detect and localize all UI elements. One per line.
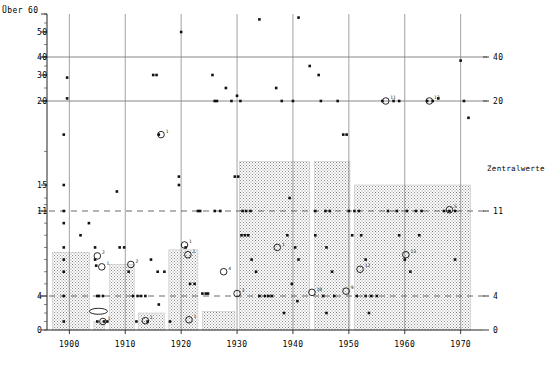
data-point xyxy=(213,210,216,213)
data-point xyxy=(317,74,320,77)
x-axis-label: 1900 xyxy=(59,340,80,349)
data-point xyxy=(62,295,65,298)
data-point xyxy=(342,133,345,136)
data-point xyxy=(66,76,69,79)
data-point xyxy=(240,234,243,237)
data-point xyxy=(155,74,158,77)
data-point xyxy=(219,210,222,213)
data-point xyxy=(324,210,327,213)
data-point xyxy=(150,258,153,261)
data-point xyxy=(88,222,91,225)
data-point xyxy=(387,210,390,213)
data-point xyxy=(398,234,401,237)
median-circle-label: 11 xyxy=(390,95,396,100)
median-step-bar xyxy=(314,161,350,330)
median-circle-label: 13 xyxy=(434,95,440,100)
data-point xyxy=(127,270,130,273)
x-axis-label: 1950 xyxy=(338,340,359,349)
data-point xyxy=(225,87,228,90)
data-point xyxy=(189,283,192,286)
data-point xyxy=(320,100,323,103)
scatter-plot-svg: 211211111413109121113135 xyxy=(0,0,550,367)
x-axis-label: 1940 xyxy=(283,340,304,349)
data-point xyxy=(234,175,237,178)
data-point xyxy=(103,320,106,323)
median-circle-label: 1 xyxy=(106,261,109,266)
data-point xyxy=(264,295,267,298)
zentralwerte-label: Zentralwerte xyxy=(487,164,545,173)
ellipse-marker xyxy=(89,308,107,314)
data-point xyxy=(62,222,65,225)
y-axis-label-right: 20 xyxy=(493,97,503,106)
data-point xyxy=(62,133,65,136)
data-point xyxy=(135,320,138,323)
data-point xyxy=(258,18,261,21)
data-point xyxy=(62,258,65,261)
data-point xyxy=(308,65,311,68)
data-point xyxy=(459,59,462,62)
data-point xyxy=(314,234,317,237)
data-point xyxy=(351,234,354,237)
data-point xyxy=(275,87,278,90)
data-point xyxy=(144,295,147,298)
data-point xyxy=(102,295,105,298)
data-point xyxy=(283,312,286,315)
data-point xyxy=(291,283,294,286)
median-step-bar xyxy=(110,264,135,330)
median-circle-label: 5 xyxy=(454,204,457,209)
x-axis-label: 1970 xyxy=(450,340,471,349)
data-point xyxy=(62,184,65,187)
data-point xyxy=(296,300,299,303)
median-circle-marker xyxy=(94,253,101,260)
data-point xyxy=(443,210,446,213)
data-point xyxy=(329,210,332,213)
data-point xyxy=(169,320,172,323)
data-point xyxy=(66,97,69,100)
data-point xyxy=(178,175,181,178)
median-circle-marker xyxy=(220,268,227,275)
data-point xyxy=(353,210,356,213)
data-point xyxy=(355,295,358,298)
data-point xyxy=(368,312,371,315)
data-point xyxy=(207,292,210,295)
median-circle-label: 3 xyxy=(242,288,245,293)
y-axis-label-right: 4 xyxy=(493,292,498,301)
data-point xyxy=(325,312,328,315)
data-point xyxy=(245,210,248,213)
median-circle-label: 9 xyxy=(351,285,354,290)
data-point xyxy=(270,295,273,298)
data-point xyxy=(178,184,181,187)
data-point xyxy=(297,258,300,261)
data-point xyxy=(249,210,252,213)
data-point xyxy=(204,292,207,295)
median-step-bar xyxy=(53,252,90,330)
data-point xyxy=(420,210,423,213)
data-point xyxy=(230,100,233,103)
data-point xyxy=(336,100,339,103)
data-point xyxy=(297,16,300,19)
y-axis-label-right: 40 xyxy=(493,53,503,62)
data-point xyxy=(370,295,373,298)
data-point xyxy=(239,100,242,103)
median-circle-label: 1 xyxy=(150,315,153,320)
data-point xyxy=(250,258,253,261)
data-point xyxy=(62,246,65,249)
data-point xyxy=(398,100,401,103)
data-point xyxy=(98,295,101,298)
y-axis-label-right: 11 xyxy=(493,207,503,216)
data-point xyxy=(448,210,451,213)
data-point xyxy=(375,295,378,298)
data-point xyxy=(123,246,126,249)
data-point xyxy=(201,292,204,295)
data-point xyxy=(314,210,317,213)
data-point xyxy=(247,234,250,237)
data-point xyxy=(95,264,98,267)
data-point xyxy=(415,210,418,213)
data-point xyxy=(62,270,65,273)
median-circle-label: 2 xyxy=(102,250,105,255)
data-point xyxy=(418,234,421,237)
median-circle-label: 10 xyxy=(317,287,323,292)
data-point xyxy=(288,197,291,200)
data-point xyxy=(255,270,258,273)
data-point xyxy=(467,117,470,120)
